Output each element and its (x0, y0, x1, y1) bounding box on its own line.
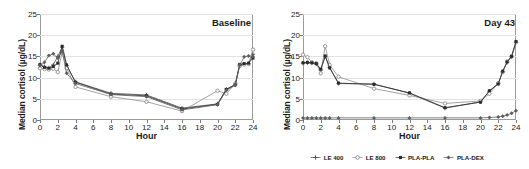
data-point-marker (247, 54, 251, 58)
data-point-marker (501, 70, 504, 73)
series-layer-day43 (303, 14, 516, 120)
legend-item-le-400: LE 400 (310, 154, 343, 161)
x-axis-label: Hour (40, 131, 253, 141)
x-axis-tick-mark (235, 120, 236, 123)
data-point-marker (510, 55, 513, 58)
plus-marker (310, 154, 321, 161)
cortisol-figure: Median cortisol (µg/dL) 0510152025024681… (0, 0, 529, 169)
x-axis-tick-mark (58, 120, 59, 123)
y-axis-tick-label: 10 (291, 73, 300, 82)
series-layer-baseline (40, 14, 253, 120)
y-axis-tick-label: 25 (291, 10, 300, 19)
data-point-marker (497, 82, 500, 85)
data-point-marker (310, 116, 314, 120)
y-axis-label: Median cortisol (µg/dL) (6, 14, 20, 132)
chart-legend: LE 400LE 800PLA-PLAPLA-DEX (265, 150, 529, 164)
panel-title-baseline: Baseline (212, 17, 251, 28)
x-axis-tick-mark (111, 120, 112, 123)
x-axis-tick-mark (481, 120, 482, 123)
data-point-marker (324, 54, 327, 57)
data-point-marker (510, 111, 514, 115)
y-axis-tick-label: 20 (28, 31, 37, 40)
legend-item-pla-dex: PLA-DEX (443, 154, 483, 161)
data-point-marker (56, 62, 59, 65)
x-axis-tick-mark (445, 120, 446, 123)
x-axis-tick-mark (129, 120, 130, 123)
x-axis-tick-mark (76, 120, 77, 123)
data-point-marker (506, 60, 509, 63)
chart-panel-baseline: Median cortisol (µg/dL) 0510152025024681… (0, 0, 265, 169)
circle-marker (352, 154, 363, 161)
data-point-marker (52, 65, 55, 68)
x-axis-tick-mark (498, 120, 499, 123)
data-point-marker (408, 91, 411, 94)
series-line (303, 42, 516, 108)
data-point-marker (47, 54, 51, 58)
data-point-marker (323, 116, 327, 120)
x-axis-tick-mark (392, 120, 393, 123)
data-point-marker (306, 61, 309, 64)
x-axis-tick-mark (218, 120, 219, 123)
data-point-marker (479, 116, 483, 120)
legend-item-pla-pla: PLA-PLA (395, 154, 435, 161)
data-point-marker (319, 68, 322, 71)
data-point-marker (47, 67, 50, 70)
data-point-marker (306, 56, 309, 59)
data-point-marker (74, 85, 77, 88)
data-point-marker (408, 116, 412, 120)
data-point-marker (372, 87, 375, 90)
data-point-marker (61, 45, 64, 48)
x-axis-tick-mark (410, 120, 411, 123)
data-point-marker (315, 62, 318, 65)
plot-area-baseline: 0510152025024681012141618202224 (40, 14, 253, 120)
data-series (302, 40, 518, 109)
plot-area-day43: 0510152025024681012141618202224 (303, 14, 516, 120)
y-axis-tick-label: 25 (28, 10, 37, 19)
x-axis-label: Hour (303, 131, 516, 141)
data-point-marker (515, 40, 518, 43)
x-axis-tick-mark (200, 120, 201, 123)
x-axis-tick-mark (40, 120, 41, 123)
x-axis-tick-mark (182, 120, 183, 123)
x-axis-tick-mark (516, 120, 517, 123)
data-point-marker (337, 116, 341, 120)
x-axis-tick-mark (427, 120, 428, 123)
data-point-marker (443, 116, 447, 120)
x-axis-tick-mark (93, 120, 94, 123)
x-axis-tick-mark (374, 120, 375, 123)
y-axis-tick-label: 15 (28, 52, 37, 61)
data-point-marker (514, 109, 518, 113)
data-point-marker (373, 83, 376, 86)
data-point-marker (216, 89, 219, 92)
y-axis-tick-label: 15 (291, 52, 300, 61)
x-axis-tick-mark (303, 120, 304, 123)
data-point-marker (302, 61, 305, 64)
data-point-marker (337, 75, 340, 78)
y-axis-tick-label: 10 (28, 73, 37, 82)
data-point-marker (328, 116, 332, 120)
data-point-marker (145, 100, 148, 103)
y-axis-tick-label: 20 (291, 31, 300, 40)
data-point-marker (487, 115, 491, 119)
data-point-marker (314, 116, 318, 120)
data-point-marker (496, 115, 500, 119)
data-point-marker (337, 82, 340, 85)
x-axis-tick-mark (339, 120, 340, 123)
data-point-marker (301, 53, 304, 56)
data-point-marker (372, 116, 376, 120)
square-marker (395, 154, 406, 161)
data-point-marker (319, 72, 322, 75)
data-point-marker (43, 66, 46, 69)
data-point-marker (479, 101, 482, 104)
data-point-marker (247, 62, 250, 65)
chart-panel-day43: Median cortisol (µg/dL) 0510152025024681… (265, 0, 529, 169)
data-point-marker (56, 70, 59, 73)
x-axis-tick-mark (164, 120, 165, 123)
x-axis-tick-mark (463, 120, 464, 123)
data-point-marker (305, 116, 309, 120)
x-axis-tick-mark (321, 120, 322, 123)
data-point-marker (488, 89, 491, 92)
data-point-marker (242, 55, 246, 59)
data-point-marker (65, 63, 68, 66)
data-point-marker (328, 66, 331, 69)
